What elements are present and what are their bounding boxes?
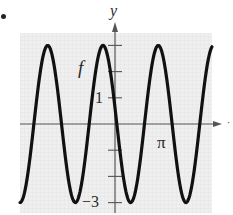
x-axis-arrow-icon [213,121,222,127]
y-tick-label-1: 1 [95,90,103,106]
x-tick-label-pi: π [157,134,166,151]
function-graph [0,0,233,215]
y-axis-label: y [110,3,117,19]
y-axis-arrow-icon [112,22,118,32]
x-axis-dot: · [227,118,230,128]
curve-label-f: f [78,58,83,77]
y-tick-label-neg3: −3 [82,194,99,210]
